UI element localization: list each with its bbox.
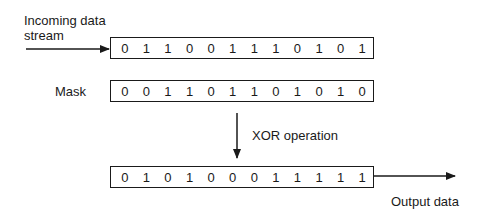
output-bit: 1: [287, 170, 309, 185]
output-bit: 1: [308, 170, 330, 185]
output-bit-register: 0 1 0 1 0 0 0 1 1 1 1 1: [110, 166, 374, 188]
mask-bit: 0: [136, 84, 158, 99]
output-bit: 0: [200, 170, 222, 185]
input-bit: 0: [179, 41, 201, 56]
input-bit: 1: [351, 41, 373, 56]
input-bit: 1: [222, 41, 244, 56]
input-bit: 0: [330, 41, 352, 56]
output-bit: 0: [243, 170, 265, 185]
input-bit: 1: [136, 41, 158, 56]
incoming-label-line1: Incoming data: [24, 13, 106, 28]
mask-bit-register: 0 0 1 1 0 1 1 0 1 0 1 0: [110, 80, 374, 102]
mask-bit: 1: [287, 84, 309, 99]
input-bit: 1: [157, 41, 179, 56]
input-bit: 1: [308, 41, 330, 56]
output-bit: 0: [114, 170, 136, 185]
input-bit: 1: [243, 41, 265, 56]
output-bit: 1: [351, 170, 373, 185]
mask-bit: 0: [351, 84, 373, 99]
mask-bit: 1: [222, 84, 244, 99]
input-bit: 0: [287, 41, 309, 56]
mask-bit: 1: [157, 84, 179, 99]
mask-bit: 0: [114, 84, 136, 99]
input-bit: 0: [200, 41, 222, 56]
output-bit: 0: [222, 170, 244, 185]
output-bit: 1: [136, 170, 158, 185]
mask-bit: 0: [200, 84, 222, 99]
input-bit: 1: [265, 41, 287, 56]
mask-bit: 0: [308, 84, 330, 99]
mask-bit: 1: [330, 84, 352, 99]
xor-operation-label: XOR operation: [252, 128, 338, 143]
output-bit: 0: [157, 170, 179, 185]
mask-bit: 1: [179, 84, 201, 99]
output-bit: 1: [265, 170, 287, 185]
mask-bit: 0: [265, 84, 287, 99]
output-bit: 1: [179, 170, 201, 185]
output-bit: 1: [330, 170, 352, 185]
incoming-label-line2: stream: [24, 28, 106, 43]
mask-label: Mask: [55, 84, 86, 99]
output-data-label: Output data: [391, 194, 459, 209]
mask-bit: 1: [243, 84, 265, 99]
incoming-label: Incoming data stream: [24, 13, 106, 43]
input-bit: 0: [114, 41, 136, 56]
input-bit-register: 0 1 1 0 0 1 1 1 0 1 0 1: [110, 37, 374, 59]
